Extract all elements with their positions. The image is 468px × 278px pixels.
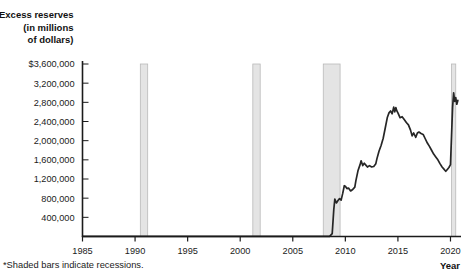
x-axis-title: Year: [440, 260, 460, 271]
recession-bar-1: [253, 64, 260, 237]
excess-reserves-chart-figure: 400,000800,0001,200,0001,600,0002,000,00…: [0, 0, 468, 278]
y-tick-label-0: 400,000: [41, 213, 74, 223]
x-tick-label-5: 2010: [335, 246, 355, 256]
recession-bar-0: [140, 64, 147, 237]
y-tick-label-7: 3,200,000: [34, 79, 75, 89]
y-axis-title-line-1: (in millions: [23, 22, 73, 33]
x-tick-label-6: 2015: [388, 246, 408, 256]
y-tick-label-3: 1,600,000: [34, 155, 75, 165]
x-tick-label-0: 1985: [72, 246, 92, 256]
x-tick-label-2: 1995: [177, 246, 197, 256]
x-tick-label-3: 2000: [230, 246, 250, 256]
y-tick-label-6: 2,800,000: [34, 98, 75, 108]
y-tick-label-1: 800,000: [41, 194, 74, 204]
y-tick-label-4: 2,000,000: [34, 136, 75, 146]
y-axis-title-line-2: of dollars): [28, 34, 74, 45]
data-line-excess-reserves: [83, 93, 458, 237]
chart-canvas: 400,000800,0001,200,0001,600,0002,000,00…: [0, 0, 468, 278]
y-tick-label-5: 2,400,000: [34, 117, 75, 127]
x-tick-label-4: 2005: [283, 246, 303, 256]
chart-footnote: *Shaded bars indicate recessions.: [3, 260, 144, 270]
x-tick-label-1: 1990: [125, 246, 145, 256]
x-tick-label-7: 2020: [440, 246, 460, 256]
recession-bar-2: [323, 64, 340, 237]
y-tick-label-8: $3,600,000: [29, 59, 75, 69]
y-axis-title-line-0: Excess reserves: [0, 9, 74, 20]
y-tick-label-2: 1,200,000: [34, 174, 75, 184]
recession-bar-3: [452, 64, 456, 237]
